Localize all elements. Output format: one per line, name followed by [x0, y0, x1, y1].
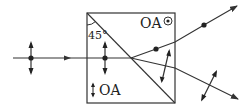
- angle-label: 45°: [88, 30, 108, 41]
- upper-ray: [131, 6, 237, 58]
- optic-axis-label-top: OA: [140, 16, 162, 30]
- lower-ray: [131, 58, 238, 99]
- lower-ray-polarization-inside-icon: [160, 49, 171, 83]
- polarization-dot-icon: [201, 22, 206, 27]
- prism-polarization-icon: [102, 41, 107, 75]
- polarization-dot-icon: [153, 46, 158, 51]
- incident-polarization-icon: [28, 41, 33, 75]
- angle-arc: [87, 22, 96, 26]
- optic-axis-out-of-page-icon: [164, 17, 172, 25]
- optics-diagram: [0, 0, 249, 111]
- optic-axis-vertical-icon: [91, 83, 95, 98]
- lower-ray-polarization-outside-icon: [201, 70, 217, 102]
- incident-ray-arrow-icon: [64, 56, 71, 61]
- optic-axis-label-bottom: OA: [99, 83, 121, 97]
